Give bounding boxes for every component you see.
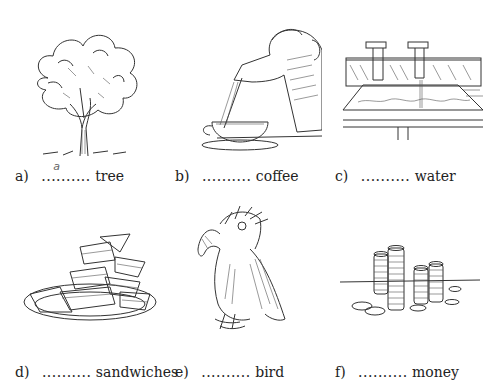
handwritten-answer: a [53, 160, 60, 173]
item-e-label: e) .......... bird [175, 364, 284, 380]
answer-blank[interactable]: .......... [361, 168, 411, 184]
tree-illustration [18, 18, 148, 158]
item-b-label: b) .......... coffee [175, 168, 299, 184]
item-letter: f) [335, 364, 346, 380]
item-letter: c) [335, 168, 348, 184]
answer-blank[interactable]: .......... [201, 364, 251, 380]
item-noun: bird [255, 364, 284, 380]
sink-taps-illustration [338, 30, 488, 140]
item-letter: a) [15, 168, 29, 184]
item-noun: money [412, 364, 459, 380]
item-noun: coffee [256, 168, 299, 184]
coffee-pour-illustration [172, 10, 322, 160]
item-noun: tree [95, 168, 124, 184]
sandwich-plate-illustration [20, 232, 160, 332]
answer-blank[interactable]: ..........a [41, 168, 91, 184]
item-f-label: f) .......... money [335, 364, 459, 380]
item-letter: b) [175, 168, 189, 184]
answer-blank[interactable]: .......... [202, 168, 252, 184]
answer-blank[interactable]: .......... [358, 364, 408, 380]
item-a-label: a) ..........a tree [15, 168, 124, 184]
item-noun: water [415, 168, 456, 184]
item-letter: e) [175, 364, 189, 380]
item-letter: d) [15, 364, 29, 380]
item-noun: sandwiches [96, 364, 178, 380]
item-c-label: c) .......... water [335, 168, 456, 184]
answer-blank[interactable]: .......... [42, 364, 92, 380]
coin-stacks-illustration [340, 244, 480, 324]
item-d-label: d) .......... sandwiches [15, 364, 178, 380]
parrot-illustration [190, 204, 300, 344]
